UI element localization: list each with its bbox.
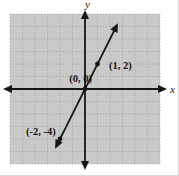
data-point — [58, 137, 63, 142]
point-label-origin: (0, 0) — [69, 73, 92, 85]
data-point — [95, 62, 100, 67]
y-axis-label: y — [84, 0, 90, 10]
point-label-neg2-neg4: (-2, -4) — [26, 126, 56, 138]
graph-figure: (-2, -4) (0, 0) (1, 2) y x — [0, 0, 179, 176]
coordinate-plane-svg: (-2, -4) (0, 0) (1, 2) y x — [0, 0, 179, 176]
data-point — [83, 87, 88, 92]
x-axis-label: x — [169, 83, 175, 95]
point-label-1-2: (1, 2) — [109, 60, 132, 72]
